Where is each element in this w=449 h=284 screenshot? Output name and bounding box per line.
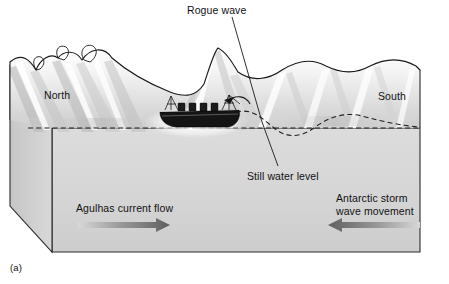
figure-caption: (a) (10, 262, 22, 273)
label-antarctic-line2: wave movement (336, 205, 414, 218)
label-agulhas-current-flow: Agulhas current flow (76, 202, 173, 214)
label-still-water-level: Still water level (247, 170, 319, 182)
rogue-wave-diagram (0, 0, 449, 284)
block-front-face (52, 128, 420, 252)
label-antarctic-storm-wave-movement: Antarctic storm wave movement (336, 192, 414, 217)
label-south: South (378, 90, 406, 102)
label-antarctic-line1: Antarctic storm (336, 192, 414, 205)
ship-hull (160, 110, 239, 127)
label-rogue-wave: Rogue wave (187, 4, 246, 16)
label-north: North (44, 89, 70, 101)
